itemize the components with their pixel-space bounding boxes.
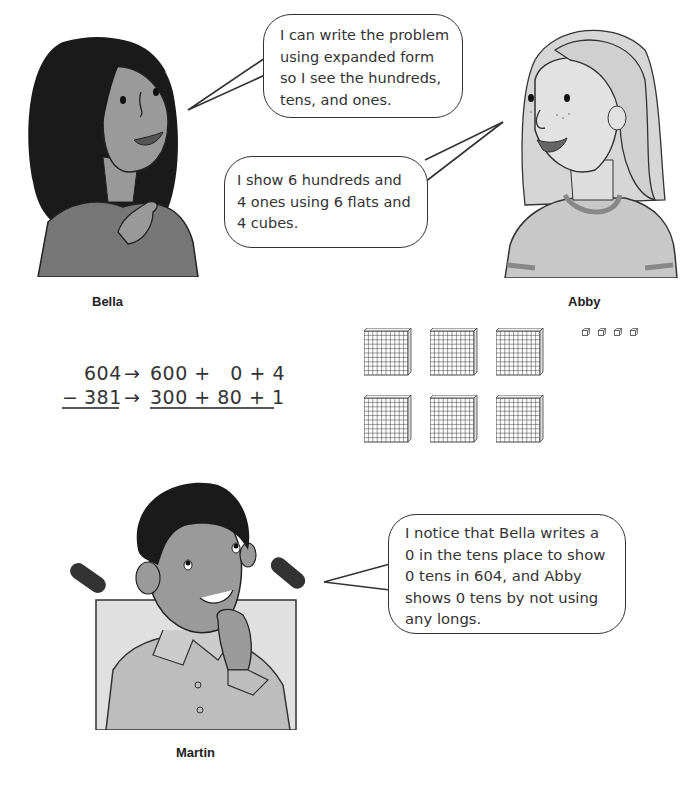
flat-block-icon <box>496 328 544 376</box>
bubble-line: 4 ones using 6 flats and <box>237 192 427 214</box>
bubble-line: 0 in the tens place to show <box>405 544 625 566</box>
bubble-line: shows 0 tens by not using <box>405 587 625 609</box>
row1-arrow: → <box>124 362 140 384</box>
bubble-line: I notice that Bella writes a <box>405 522 625 544</box>
subtrahend-underline <box>62 407 119 409</box>
flat-block-icon <box>364 328 412 376</box>
row2-operator: − <box>62 386 78 408</box>
martin-illustration <box>68 470 326 730</box>
row2-number: 381 <box>84 386 122 408</box>
bubble-line: I show 6 hundreds and <box>237 170 427 192</box>
row2-expansion: 300 + 80 + 1 <box>150 386 285 408</box>
abby-illustration <box>495 10 683 278</box>
bubble-line: any longs. <box>405 608 625 630</box>
abby-name-label: Abby <box>568 294 601 309</box>
bubble-line: so I see the hundreds, <box>280 68 462 90</box>
bella-bubble-tail-icon <box>185 50 265 115</box>
abby-bubble-tail-icon <box>425 120 505 190</box>
bella-name-label: Bella <box>92 294 123 309</box>
bella-illustration <box>8 12 208 277</box>
row1-expansion: 600 + 0 + 4 <box>150 362 285 384</box>
flat-block-icon <box>496 395 544 443</box>
flat-block-icon <box>430 395 478 443</box>
bubble-line: using expanded form <box>280 47 462 69</box>
unit-cube-icon <box>582 328 590 336</box>
expansion-underline <box>150 407 274 409</box>
bella-figure-icon <box>8 12 208 277</box>
bella-speech-bubble: I can write the problem using expanded f… <box>263 14 463 118</box>
unit-cube-icon <box>614 328 622 336</box>
flat-block-icon <box>430 328 478 376</box>
bubble-line: 0 tens in 604, and Abby <box>405 565 625 587</box>
martin-figure-icon <box>68 470 326 730</box>
bubble-line: tens, and ones. <box>280 90 462 112</box>
unit-cube-icon <box>630 328 638 336</box>
martin-name-label: Martin <box>176 745 215 760</box>
row2-arrow: → <box>124 386 140 408</box>
abby-speech-bubble: I show 6 hundreds and 4 ones using 6 fla… <box>224 156 428 248</box>
martin-bubble-tail-icon <box>322 558 392 598</box>
unit-cube-icon <box>598 328 606 336</box>
abby-figure-icon <box>495 10 683 278</box>
flat-block-icon <box>364 395 412 443</box>
bubble-line: I can write the problem <box>280 25 462 47</box>
row1-number: 604 <box>84 362 122 384</box>
bubble-line: 4 cubes. <box>237 213 427 235</box>
martin-speech-bubble: I notice that Bella writes a 0 in the te… <box>388 514 626 634</box>
